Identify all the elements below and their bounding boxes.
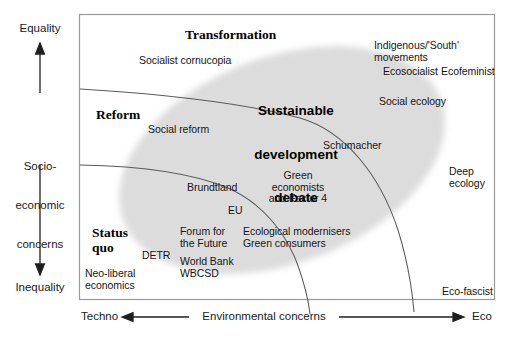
position-schumacher: Schumacher: [323, 140, 381, 152]
x-axis-right-label: Eco: [472, 310, 492, 323]
y-axis-bottom-label: Inequality: [0, 281, 80, 294]
position-deep-ecology: Deep ecology: [449, 166, 485, 189]
position-world-bank-wbcsd: World Bank WBCSD: [180, 256, 234, 279]
diagram-canvas: Equality Socio- economic concerns Inequa…: [0, 0, 522, 340]
band-label-status-quo: Status quo: [92, 225, 128, 255]
position-brundtland: Brundtland: [187, 182, 237, 194]
y-axis-title-line-2: economic: [0, 199, 80, 212]
position-neo-liberal-economics: Neo-liberal economics: [85, 268, 135, 291]
y-axis-title-line-1: Socio-: [0, 160, 80, 173]
position-detr: DETR: [142, 250, 170, 262]
position-ecofeminist: Ecofeminist: [441, 66, 495, 78]
position-green-economists-and-factor-4: Green economists and Factor 4: [254, 170, 342, 205]
position-eu: EU: [228, 205, 243, 217]
position-socialist-cornucopia: Socialist cornucopia: [139, 55, 231, 67]
band-label-reform: Reform: [96, 107, 140, 122]
core-label-line-1: Sustainable: [241, 104, 351, 119]
position-indigenous-south-movements: Indigenous/'South' movements: [374, 40, 459, 63]
position-ecological-modernisers-green-consumers: Ecological modernisers Green consumers: [243, 226, 350, 249]
x-axis-title: Environmental concerns: [196, 310, 332, 323]
position-social-reform: Social reform: [148, 124, 209, 136]
y-axis-title-line-3: concerns: [0, 238, 80, 251]
position-eco-fascist: Eco-fascist: [442, 286, 493, 298]
position-forum-for-the-future: Forum for the Future: [180, 226, 227, 249]
band-label-transformation: Transformation: [185, 27, 276, 42]
y-axis-top-label: Equality: [0, 22, 80, 35]
position-ecosocialist: Ecosocialist: [383, 66, 438, 78]
y-axis-title: Socio- economic concerns: [0, 134, 80, 277]
position-social-ecology: Social ecology: [379, 96, 446, 108]
x-axis-left-label: Techno: [81, 310, 118, 323]
core-label-sustainable-development-debate: Sustainable development debate: [241, 75, 351, 235]
